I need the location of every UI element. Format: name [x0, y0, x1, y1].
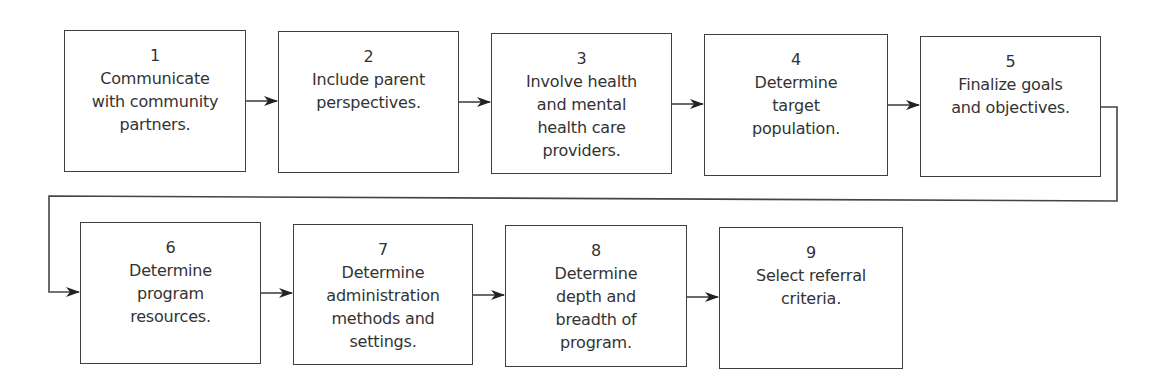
step-number: 3 [492, 47, 671, 70]
step-label: Determine administration methods and set… [294, 261, 472, 353]
step-box-3: 3 Involve health and mental health care … [491, 33, 672, 174]
step-box-5: 5 Finalize goals and objectives. [920, 36, 1101, 177]
step-box-6: 6 Determine program resources. [80, 222, 261, 364]
step-label: Determine program resources. [81, 259, 260, 328]
step-label: Determine depth and breadth of program. [506, 262, 686, 354]
step-label: Involve health and mental health care pr… [492, 70, 671, 162]
step-box-9: 9 Select referral criteria. [719, 227, 903, 369]
process-flowchart: 1 Communicate with community partners. 2… [0, 0, 1156, 382]
step-number: 5 [921, 50, 1100, 73]
step-box-8: 8 Determine depth and breadth of program… [505, 225, 687, 367]
step-number: 4 [705, 48, 887, 71]
step-number: 9 [720, 241, 902, 264]
step-label: Communicate with community partners. [65, 67, 245, 136]
step-number: 1 [65, 44, 245, 67]
step-number: 7 [294, 238, 472, 261]
step-box-7: 7 Determine administration methods and s… [293, 224, 473, 365]
step-label: Include parent perspectives. [279, 68, 458, 114]
step-box-4: 4 Determine target population. [704, 34, 888, 176]
step-number: 8 [506, 239, 686, 262]
step-label: Finalize goals and objectives. [921, 73, 1100, 119]
step-number: 2 [279, 45, 458, 68]
step-label: Select referral criteria. [720, 264, 902, 310]
step-label: Determine target population. [705, 71, 887, 140]
step-box-1: 1 Communicate with community partners. [64, 30, 246, 172]
step-box-2: 2 Include parent perspectives. [278, 31, 459, 173]
step-number: 6 [81, 236, 260, 259]
